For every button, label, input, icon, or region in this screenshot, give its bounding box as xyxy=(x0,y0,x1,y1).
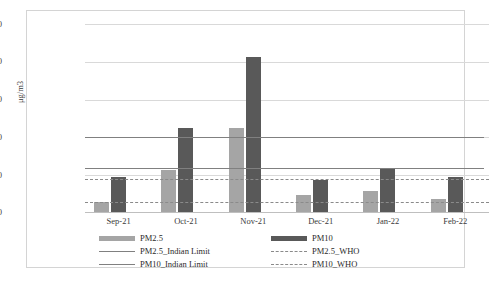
legend-label: PM2.5_Indian Limit xyxy=(140,247,210,256)
legend-item-pm2-5[interactable]: PM2.5 xyxy=(99,232,257,245)
bar-PM10-Feb-22 xyxy=(448,177,463,213)
x-axis-tick-3: Dec-21 xyxy=(287,217,354,226)
bar-group xyxy=(287,24,354,213)
bar-PM25-Oct-21 xyxy=(161,170,176,213)
bar-group xyxy=(152,24,219,213)
chart-legend: PM2.5PM10PM2.5_Indian LimitPM2.5_WHOPM10… xyxy=(99,232,429,271)
legend-label: PM2.5_WHO xyxy=(312,247,359,256)
bar-PM25-Nov-21 xyxy=(229,128,244,213)
legend-key-icon xyxy=(99,246,135,257)
y-axis-tick-50: 50 xyxy=(0,171,2,180)
reference-line-pm10-who xyxy=(85,179,489,180)
plot-area: Sep-21Oct-21Nov-21Dec-21Jan-22Feb-22 xyxy=(85,24,489,213)
bar-PM10-Nov-21 xyxy=(246,57,261,213)
legend-item-pm10-indian-limit[interactable]: PM10_Indian Limit xyxy=(99,258,257,271)
bar-group xyxy=(220,24,287,213)
reference-line-pm2-5-who xyxy=(85,202,489,203)
bar-PM10-Sep-21 xyxy=(111,177,126,213)
legend-item-pm10-who[interactable]: PM10_WHO xyxy=(271,258,429,271)
y-axis-tick-200: 200 xyxy=(0,57,2,66)
y-axis-title: μg/m3 xyxy=(15,81,25,103)
legend-key-icon xyxy=(271,246,307,257)
legend-key-icon xyxy=(99,233,135,244)
legend-label: PM10_WHO xyxy=(312,260,357,269)
legend-key-icon xyxy=(271,259,307,270)
x-axis-tick-5: Feb-22 xyxy=(422,217,489,226)
legend-label: PM10 xyxy=(312,234,333,243)
x-axis-tick-1: Oct-21 xyxy=(152,217,219,226)
bar-group xyxy=(422,24,489,213)
legend-item-pm2-5-indian-limit[interactable]: PM2.5_Indian Limit xyxy=(99,245,257,258)
x-axis-tick-2: Nov-21 xyxy=(220,217,287,226)
x-axis-tick-4: Jan-22 xyxy=(354,217,421,226)
x-axis-line xyxy=(85,212,489,213)
y-axis-tick-250: 250 xyxy=(0,20,2,29)
bar-PM10-Oct-21 xyxy=(178,128,193,213)
y-axis-tick-150: 150 xyxy=(0,95,2,104)
legend-key-icon xyxy=(271,233,307,244)
bar-PM25-Dec-21 xyxy=(296,195,311,213)
chart-container: μg/m3 250 200 150 100 50 0 Sep-21Oct-21N… xyxy=(26,10,465,268)
reference-line-pm10-indian-limit xyxy=(85,137,484,138)
bar-PM10-Jan-22 xyxy=(380,169,395,213)
bar-group xyxy=(354,24,421,213)
bar-group xyxy=(85,24,152,213)
legend-label: PM2.5 xyxy=(140,234,163,243)
bar-PM10-Dec-21 xyxy=(313,180,328,213)
y-axis-tick-0: 0 xyxy=(0,208,2,217)
legend-label: PM10_Indian Limit xyxy=(140,260,208,269)
x-axis-tick-0: Sep-21 xyxy=(85,217,152,226)
legend-key-icon xyxy=(99,259,135,270)
legend-item-pm2-5-who[interactable]: PM2.5_WHO xyxy=(271,245,429,258)
y-axis-tick-100: 100 xyxy=(0,133,2,142)
reference-line-pm2-5-indian-limit xyxy=(85,168,484,169)
legend-item-pm10[interactable]: PM10 xyxy=(271,232,429,245)
